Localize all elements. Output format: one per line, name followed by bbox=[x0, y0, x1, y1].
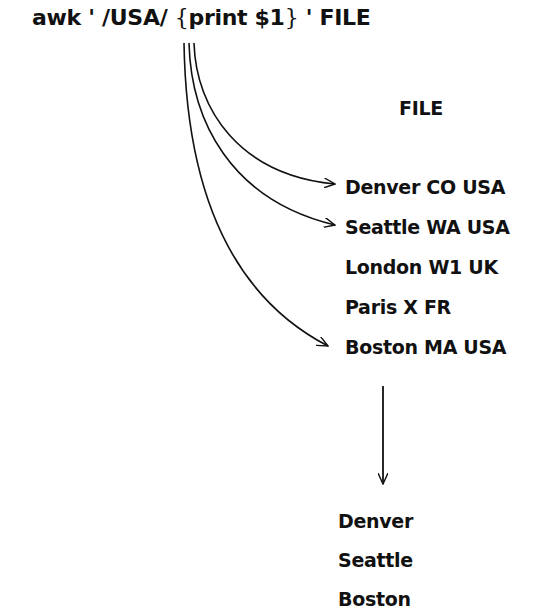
arrow-to-seattle-icon bbox=[189, 43, 335, 225]
file-record: London W1 UK bbox=[345, 256, 498, 278]
file-title: FILE bbox=[399, 97, 443, 119]
arrows-layer bbox=[0, 0, 555, 614]
arrow-to-denver-icon bbox=[194, 43, 335, 184]
output-line: Denver bbox=[338, 510, 413, 532]
arrow-to-boston-icon bbox=[184, 43, 328, 346]
file-record: Boston MA USA bbox=[345, 336, 506, 358]
file-record: Paris X FR bbox=[345, 296, 451, 318]
file-record: Seattle WA USA bbox=[345, 216, 510, 238]
file-record: Denver CO USA bbox=[345, 176, 505, 198]
output-line: Boston bbox=[338, 588, 411, 610]
output-line: Seattle bbox=[338, 549, 413, 571]
